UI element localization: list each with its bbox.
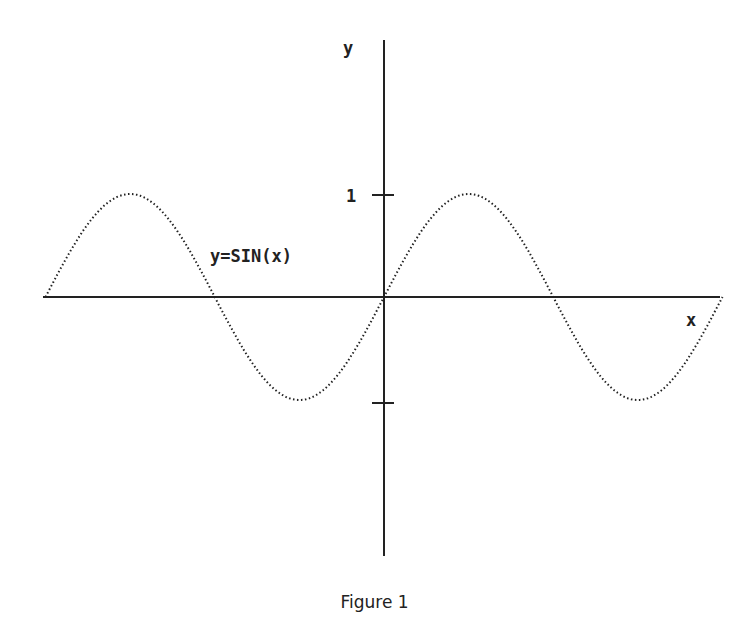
y-axis-label: y [343,38,353,58]
x-axis-label: x [686,310,696,330]
y-tick-label-1: 1 [346,186,356,206]
curve-label: y=SIN(x) [210,246,292,266]
sine-plot: y x 1 y=SIN(x) [0,0,749,619]
figure-caption: Figure 1 [0,592,749,612]
